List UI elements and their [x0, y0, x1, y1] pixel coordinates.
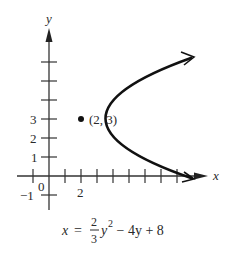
x-axis-label: x	[212, 168, 219, 183]
y-tick-label-1: 1	[31, 150, 38, 165]
x-tick-label-2: 2	[77, 185, 84, 200]
y-tick-label-neg1: −1	[20, 188, 34, 203]
x-axis-arrow-icon	[194, 173, 208, 180]
equation-equals: =	[74, 223, 82, 238]
equation-frac-den: 3	[91, 232, 97, 246]
equation-y: y	[99, 223, 108, 238]
y-tick-label-2: 2	[30, 131, 37, 146]
equation: x = 2 3 y 2 − 4y + 8	[61, 215, 164, 246]
equation-rest: − 4y + 8	[113, 223, 164, 238]
y-tick-label-3: 3	[30, 112, 37, 127]
x-tick-label-0: 0	[38, 179, 45, 194]
equation-frac-num: 2	[91, 215, 97, 229]
vertex-label: (2, 3)	[89, 112, 117, 127]
parabola-curve	[106, 58, 192, 178]
y-axis-label: y	[44, 11, 52, 26]
y-axis-arrow-icon	[46, 28, 53, 42]
parabola-graph: y x 3 2 1 −1 0 2 (2, 3) x =	[0, 0, 232, 253]
equation-lhs: x	[61, 223, 69, 238]
vertex-point	[78, 116, 84, 122]
